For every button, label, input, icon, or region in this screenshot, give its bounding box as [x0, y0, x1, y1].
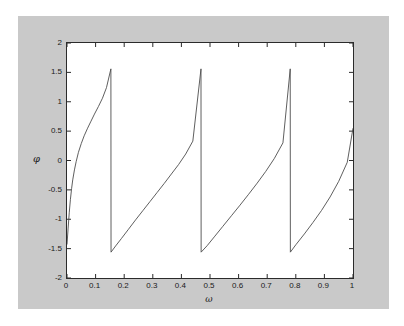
x-tick-label: 0: [64, 281, 68, 290]
x-tick-label: 0.8: [289, 281, 300, 290]
data-series-phase: [67, 69, 353, 252]
x-tick-label: 0.5: [203, 281, 214, 290]
y-tick-label: -2: [55, 273, 62, 282]
y-tick-label: 1: [58, 96, 62, 105]
x-tick-label: 0.9: [318, 281, 329, 290]
x-tick-label: 0.3: [146, 281, 157, 290]
x-tick-label: 0.6: [232, 281, 243, 290]
x-tick-label: 0.2: [118, 281, 129, 290]
figure-canvas: φ 00.10.20.30.40.50.60.70.80.91 -2-1.5-1…: [18, 16, 389, 309]
y-tick-label: -1.5: [48, 243, 62, 252]
x-tick-label: 0.7: [261, 281, 272, 290]
x-tick-label: 0.4: [175, 281, 186, 290]
x-tick-label: 1: [350, 281, 354, 290]
y-tick-label: 1.5: [51, 67, 62, 76]
y-axis-label: φ: [33, 153, 40, 164]
y-tick-label: 0.5: [51, 126, 62, 135]
y-tick-label: 2: [58, 38, 62, 47]
x-tick-label: 0.1: [89, 281, 100, 290]
y-tick-label: -1: [55, 214, 62, 223]
y-tick-label: 0: [58, 155, 62, 164]
y-tick-label: -0.5: [48, 184, 62, 193]
plot-axes: [66, 42, 354, 279]
plot-line-svg: [67, 43, 353, 278]
x-axis-label: ω: [205, 294, 212, 304]
